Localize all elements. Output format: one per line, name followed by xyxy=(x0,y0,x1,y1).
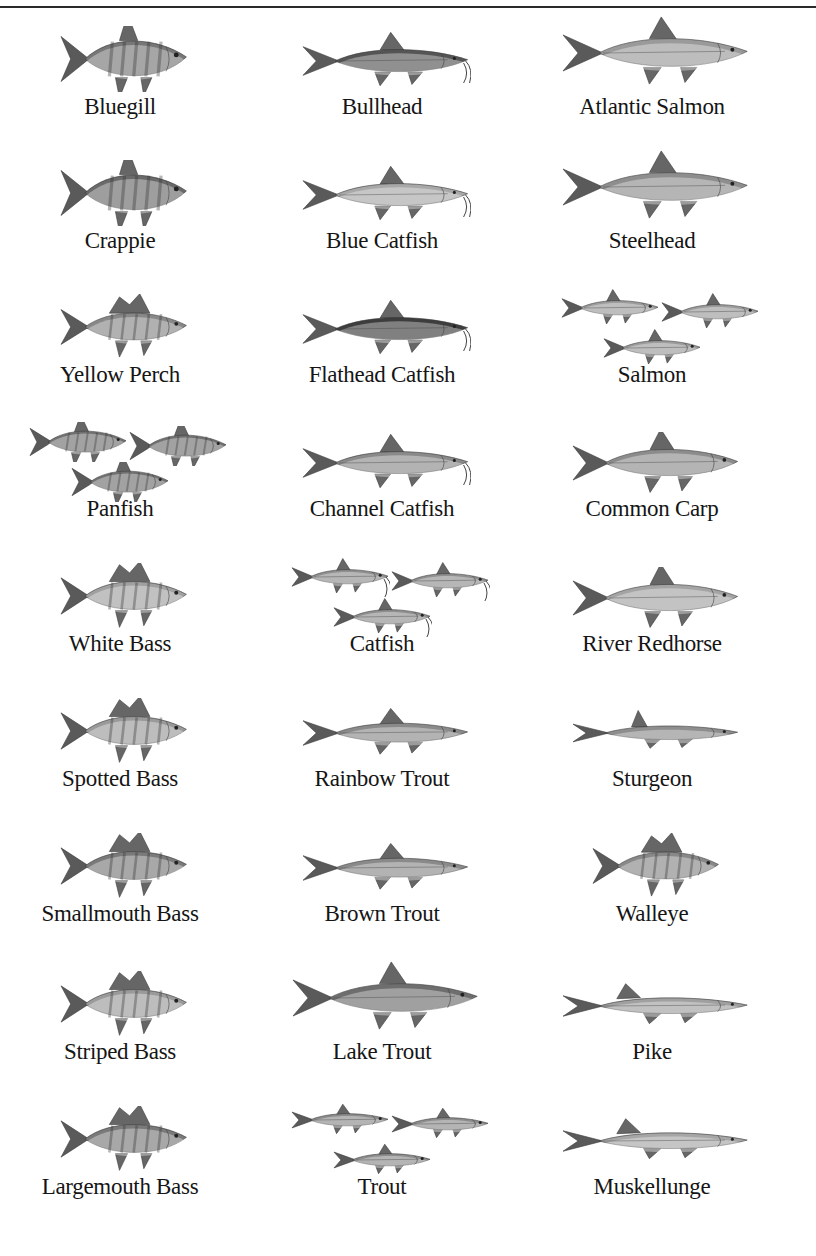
top-rule-divider xyxy=(0,6,816,8)
fish-name-label: Bullhead xyxy=(252,94,512,120)
fish-card: Sturgeon xyxy=(522,684,782,814)
fish-card: Rainbow Trout xyxy=(252,684,512,814)
fish-card: Walleye xyxy=(522,819,782,949)
fish-card: Largemouth Bass xyxy=(0,1092,250,1222)
fish-card: Spotted Bass xyxy=(0,684,250,814)
fish-name-label: Rainbow Trout xyxy=(252,766,512,792)
fish-name-label: Pike xyxy=(522,1039,782,1065)
fish-name-label: Atlantic Salmon xyxy=(522,94,782,120)
fish-name-label: Channel Catfish xyxy=(252,496,512,522)
fish-name-label: Smallmouth Bass xyxy=(0,901,250,927)
fish-card: Yellow Perch xyxy=(0,280,250,410)
fish-card: Lake Trout xyxy=(252,957,512,1087)
fish-card: Striped Bass xyxy=(0,957,250,1087)
fish-name-label: Yellow Perch xyxy=(0,362,250,388)
fish-name-label: Largemouth Bass xyxy=(0,1174,250,1200)
fish-name-label: Flathead Catfish xyxy=(252,362,512,388)
fish-name-label: Bluegill xyxy=(0,94,250,120)
fish-name-label: Lake Trout xyxy=(252,1039,512,1065)
fish-card: Smallmouth Bass xyxy=(0,819,250,949)
fish-card: Catfish xyxy=(252,549,512,679)
fish-name-label: Walleye xyxy=(522,901,782,927)
fish-card: Pike xyxy=(522,957,782,1087)
fish-name-label: Common Carp xyxy=(522,496,782,522)
fish-card: Muskellunge xyxy=(522,1092,782,1222)
fish-card: Panfish xyxy=(0,414,250,544)
fish-card: Crappie xyxy=(0,146,250,276)
fish-card: Trout xyxy=(252,1092,512,1222)
fish-name-label: Salmon xyxy=(522,362,782,388)
fish-card: White Bass xyxy=(0,549,250,679)
fish-card: Channel Catfish xyxy=(252,414,512,544)
fish-card: Salmon xyxy=(522,280,782,410)
fish-name-label: River Redhorse xyxy=(522,631,782,657)
fish-card: Common Carp xyxy=(522,414,782,544)
fish-name-label: Steelhead xyxy=(522,228,782,254)
fish-card: Bullhead xyxy=(252,12,512,142)
fish-name-label: Crappie xyxy=(0,228,250,254)
fish-name-label: Spotted Bass xyxy=(0,766,250,792)
fish-card: Brown Trout xyxy=(252,819,512,949)
fish-card: Atlantic Salmon xyxy=(522,12,782,142)
fish-card: Steelhead xyxy=(522,146,782,276)
fish-name-label: White Bass xyxy=(0,631,250,657)
fish-name-label: Muskellunge xyxy=(522,1174,782,1200)
fish-name-label: Brown Trout xyxy=(252,901,512,927)
fish-name-label: Catfish xyxy=(252,631,512,657)
fish-name-label: Blue Catfish xyxy=(252,228,512,254)
fish-name-label: Panfish xyxy=(0,496,250,522)
fish-name-label: Trout xyxy=(252,1174,512,1200)
fish-name-label: Sturgeon xyxy=(522,766,782,792)
fish-card: Flathead Catfish xyxy=(252,280,512,410)
fish-card: Blue Catfish xyxy=(252,146,512,276)
fish-name-label: Striped Bass xyxy=(0,1039,250,1065)
fish-card: Bluegill xyxy=(0,12,250,142)
fish-card: River Redhorse xyxy=(522,549,782,679)
